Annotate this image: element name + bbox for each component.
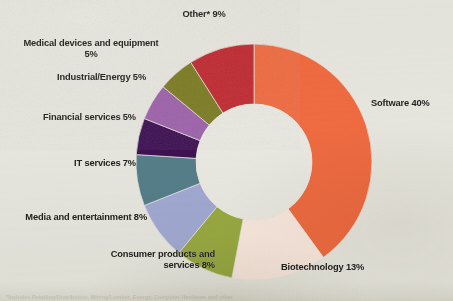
slice-label-financial-services: Financial services 5% xyxy=(6,112,136,123)
slice-label-it-services: IT services 7% xyxy=(20,158,136,169)
slice-label-media-entertainment: Media and entertainment 8% xyxy=(2,212,147,223)
donut-hole xyxy=(196,104,312,220)
slice-label-consumer-products: Consumer products and services 8% xyxy=(76,249,215,272)
donut-chart: Software 40% Biotechnology 13% Consumer … xyxy=(0,0,453,301)
slice-label-biotechnology: Biotechnology 13% xyxy=(281,262,401,273)
slice-label-other: Other* 9% xyxy=(160,9,248,20)
slice-label-software: Software 40% xyxy=(371,98,453,109)
chart-footnote: *Includes Retailing/Distribution, Mining… xyxy=(6,294,386,301)
slice-label-industrial-energy: Industrial/Energy 5% xyxy=(14,72,146,83)
slice-label-medical-devices: Medical devices and equipment 5% xyxy=(8,38,174,61)
